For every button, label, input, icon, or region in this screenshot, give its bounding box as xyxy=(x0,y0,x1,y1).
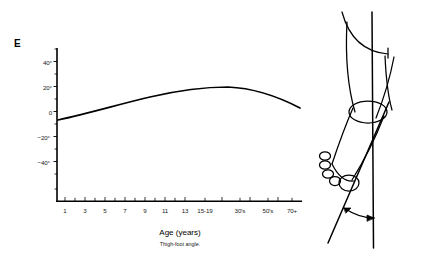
anatomy-svg xyxy=(316,0,421,261)
thigh-crease-line xyxy=(342,12,388,54)
vertical-reference-axis-line xyxy=(372,12,374,248)
anatomy-diagram xyxy=(316,0,421,261)
forefoot-outline xyxy=(332,164,354,181)
figure-caption: Thigh-foot angle. xyxy=(80,241,280,247)
foot-outline-upper xyxy=(332,108,353,164)
line-chart: 40° 20° 0 −20° −40° 1 3 5 7 9 11 13 15-1… xyxy=(0,0,320,261)
figure-thigh-foot-angle: E 40° 20° 0 −20° −40° 1 3 5 7 9 11 13 15… xyxy=(0,0,421,261)
toe-4-icon xyxy=(320,161,331,169)
toe-5-icon xyxy=(320,152,331,160)
calf-outline-left xyxy=(346,22,355,112)
data-curve-thigh-foot-angle xyxy=(58,87,300,120)
chart-svg xyxy=(0,0,320,261)
x-axis-title: Age (years) xyxy=(80,228,280,237)
